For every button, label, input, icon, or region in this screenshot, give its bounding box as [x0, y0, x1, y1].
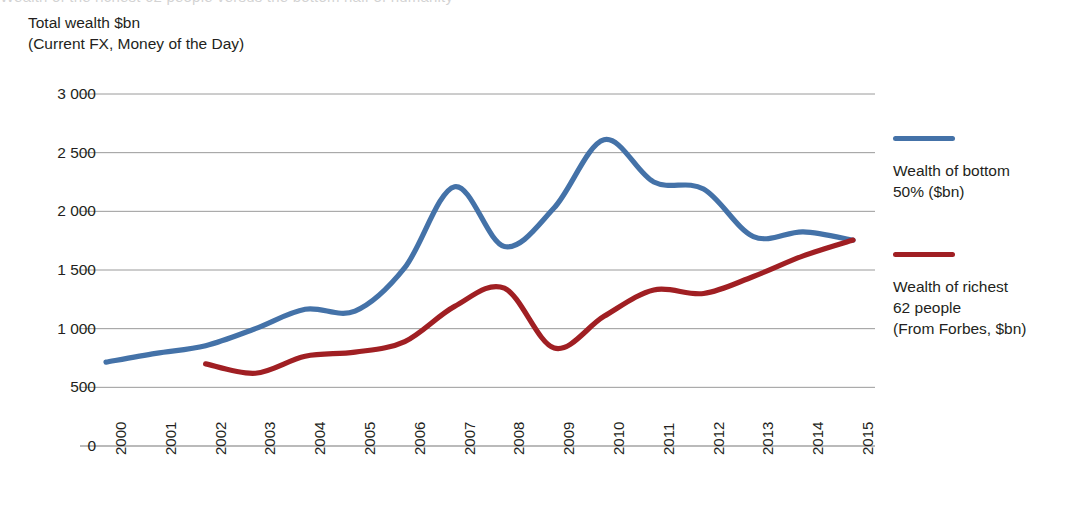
x-tick-label: 2001 — [162, 422, 179, 455]
x-tick-label: 2011 — [660, 423, 677, 455]
chart-page: Wealth of the richest 62 people versus t… — [0, 0, 1085, 524]
x-tick-label: 2006 — [411, 422, 428, 455]
x-tick-label: 2013 — [759, 422, 776, 455]
x-tick-label: 2002 — [212, 422, 229, 455]
x-tick-label: 2007 — [461, 422, 478, 455]
x-tick-label: 2012 — [710, 422, 727, 455]
x-tick-label: 2009 — [560, 422, 577, 455]
legend-label-bottom-50: Wealth of bottom 50% ($bn) — [893, 160, 1010, 202]
x-tick-label: 2000 — [112, 422, 129, 455]
x-tick-label: 2004 — [311, 422, 328, 455]
x-tick-label: 2015 — [859, 422, 876, 455]
x-tick-label: 2008 — [510, 422, 527, 455]
legend-label-richest-62: Wealth of richest 62 people (From Forbes… — [893, 276, 1027, 339]
line-swatch-icon-blue — [893, 136, 955, 141]
x-tick-label: 2010 — [610, 422, 627, 455]
line-swatch-icon-red — [893, 252, 955, 257]
legend-entry-bottom-50[interactable]: Wealth of bottom 50% ($bn) — [893, 136, 1010, 202]
legend-entry-richest-62[interactable]: Wealth of richest 62 people (From Forbes… — [893, 252, 1027, 339]
x-tick-label: 2005 — [361, 422, 378, 455]
x-tick-label: 2003 — [261, 422, 278, 455]
x-tick-label: 2014 — [809, 422, 826, 455]
